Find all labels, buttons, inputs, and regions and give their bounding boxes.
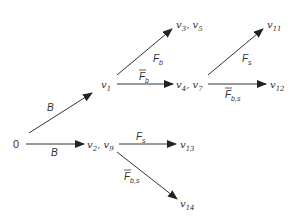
- edge-label-v2v9-v14: Fb,s: [124, 170, 140, 184]
- node-v14: v14: [180, 198, 195, 212]
- edge-label-v1-v4v7: Fb: [139, 70, 149, 84]
- node-v4-v7: v4, v7: [176, 79, 203, 93]
- svg-text:Fb,s: Fb,s: [124, 171, 140, 184]
- edge-label-0-v2v9: B: [51, 147, 58, 158]
- edge-label-v2v9-v13: Fs: [136, 131, 146, 144]
- node-v11: v11: [267, 19, 282, 33]
- svg-text:Fb: Fb: [139, 71, 149, 84]
- edge-v4v7-to-v11: [208, 29, 263, 75]
- edge-label-v4v7-v11: Fs: [242, 53, 252, 66]
- edge-v1-to-v3v5: [117, 29, 172, 75]
- edge-0-to-v1: [29, 93, 92, 133]
- edge-label-v1-v3v5: Fb: [153, 53, 163, 66]
- node-v2-v9: v2, v9: [87, 139, 114, 153]
- svg-text:Fb,s: Fb,s: [225, 89, 241, 102]
- edge-label-0-v1: B: [47, 102, 54, 113]
- node-v3-v5: v3, v5: [176, 19, 203, 33]
- node-0: 0: [13, 138, 19, 150]
- node-v1: v1: [101, 79, 111, 93]
- node-v12: v12: [270, 79, 285, 93]
- node-v13: v13: [180, 139, 195, 153]
- edge-label-v4v7-v12: Fb,s: [225, 88, 241, 102]
- diagram-canvas: 0 v1 v2, v9 v3, v5 v4, v7 v11 v12 v13 v1…: [0, 0, 296, 216]
